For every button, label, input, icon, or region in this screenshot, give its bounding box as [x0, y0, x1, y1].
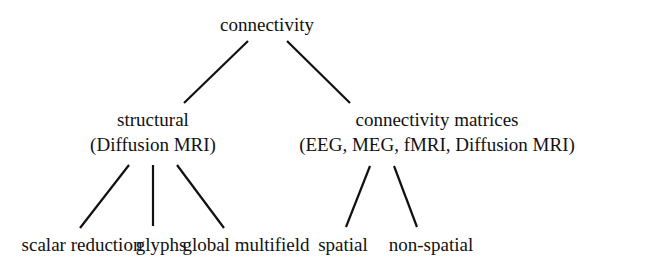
edge-root-matrices [287, 41, 350, 103]
leaf-global-multifield: global multifield [182, 234, 310, 255]
edge-structural-global-multifield [177, 165, 224, 228]
node-connectivity-matrices: connectivity matrices [355, 109, 518, 130]
edge-structural-scalar-reduction [80, 165, 129, 228]
edge-matrices-non-spatial [394, 166, 417, 227]
node-structural: structural [117, 109, 189, 130]
leaf-spatial: spatial [318, 234, 368, 255]
edge-root-structural [184, 41, 248, 103]
tree-diagram: connectivity structural (Diffusion MRI) … [0, 0, 653, 275]
leaf-glyphs: glyphs [136, 234, 187, 255]
node-root: connectivity [220, 14, 314, 35]
leaf-scalar-reduction: scalar reduction [22, 234, 143, 255]
node-structural-sublabel: (Diffusion MRI) [90, 134, 216, 156]
edge-matrices-spatial [346, 166, 370, 227]
leaf-non-spatial: non-spatial [389, 234, 473, 255]
node-connectivity-matrices-sublabel: (EEG, MEG, fMRI, Diffusion MRI) [299, 134, 575, 156]
